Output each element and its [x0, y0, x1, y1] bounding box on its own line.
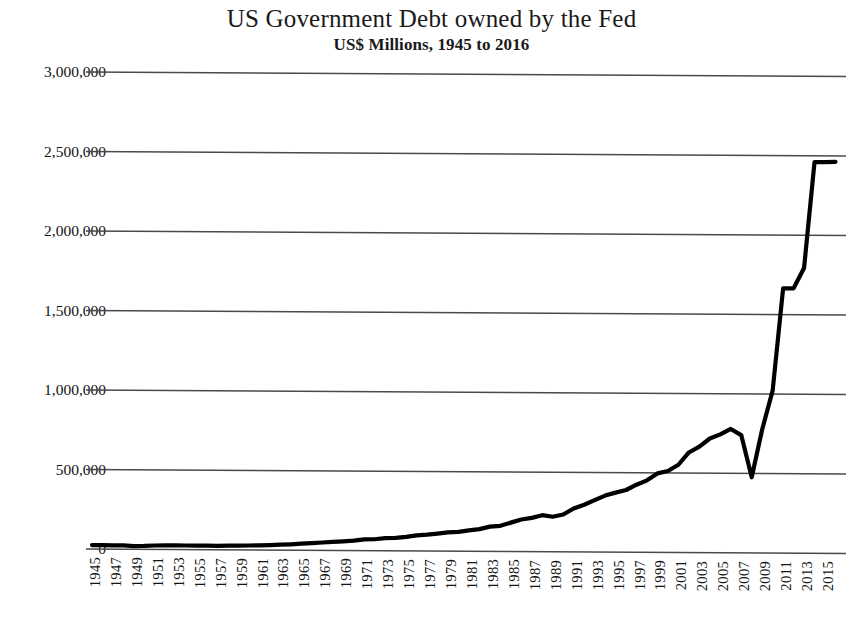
x-axis-tick-label: 1979	[443, 559, 460, 589]
x-axis-tick-label: 1981	[464, 559, 481, 589]
x-axis-tick-label: 1947	[108, 557, 125, 587]
chart-figure: US Government Debt owned by the Fed US$ …	[0, 0, 863, 617]
x-axis-tick-label: 1955	[192, 558, 209, 588]
x-axis-tick-label: 1953	[171, 557, 188, 587]
x-axis-tick-label: 1991	[569, 560, 586, 590]
x-axis-tick-label: 1975	[401, 559, 418, 589]
x-axis-tick-label: 2013	[799, 561, 816, 591]
x-axis-tick-label: 1999	[652, 560, 669, 590]
x-axis-tick-label: 1997	[632, 560, 649, 590]
x-axis-tick-label: 1969	[338, 558, 355, 588]
x-axis-tick-label: 1951	[150, 557, 167, 587]
x-axis-tick-label: 1993	[590, 560, 607, 590]
x-axis-tick-label: 1967	[317, 558, 334, 588]
x-axis-tick-label: 2007	[736, 561, 753, 591]
x-axis-tick-label: 2011	[778, 561, 795, 591]
x-axis-tick-label: 1949	[129, 557, 146, 587]
x-axis-tick-label: 2009	[757, 561, 774, 591]
x-axis-tick-label: 1983	[485, 559, 502, 589]
x-axis-tick-label: 1965	[296, 558, 313, 588]
x-axis-tick-label: 1959	[234, 558, 251, 588]
x-axis-tick-label: 1977	[422, 559, 439, 589]
x-axis-tick-label: 2001	[673, 560, 690, 590]
x-axis-tick-label: 1945	[87, 557, 104, 587]
x-axis-tick-label: 1957	[213, 558, 230, 588]
x-axis-tick-labels: 1945194719491951195319551957195919611963…	[0, 0, 863, 617]
x-axis-tick-label: 1987	[527, 560, 544, 590]
x-axis-tick-label: 1985	[506, 559, 523, 589]
x-axis-tick-label: 2005	[715, 561, 732, 591]
x-axis-tick-label: 1963	[275, 558, 292, 588]
x-axis-tick-label: 1971	[359, 559, 376, 589]
x-axis-tick-label: 1995	[611, 560, 628, 590]
x-axis-tick-label: 2015	[820, 561, 837, 591]
x-axis-tick-label: 1989	[548, 560, 565, 590]
x-axis-tick-label: 2003	[694, 561, 711, 591]
x-axis-tick-label: 1961	[255, 558, 272, 588]
x-axis-tick-label: 1973	[380, 559, 397, 589]
